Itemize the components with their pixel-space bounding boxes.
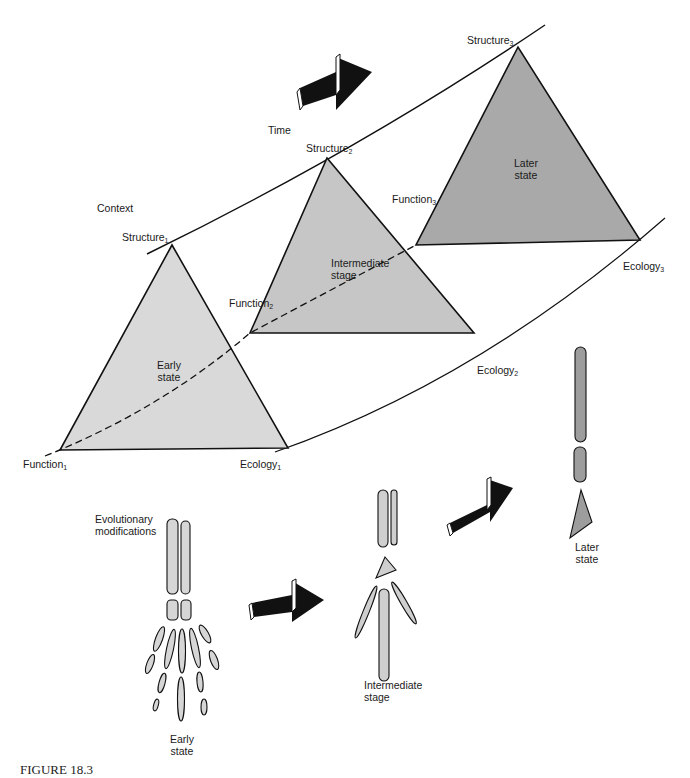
structure-1-label: Structure1 — [122, 231, 169, 247]
bones-intermediate-stage-label: Intermediatestage — [364, 679, 422, 703]
triangle-early-state — [60, 245, 288, 450]
bones-later-state-label: Laterstate — [575, 541, 599, 565]
arrow-intermediate-to-later-icon — [447, 477, 513, 536]
bones-early-state-label: Earlystate — [170, 733, 194, 757]
context-label: Context — [97, 202, 133, 214]
later-state-limb — [570, 347, 592, 538]
function-3-label: Function3 — [392, 193, 436, 209]
early-state-label: Earlystate — [157, 359, 181, 383]
structure-3-label: Structure3 — [467, 34, 514, 50]
ecology-3-label: Ecology3 — [623, 260, 664, 276]
evolutionary-modifications-label: Evolutionarymodifications — [95, 513, 156, 537]
ecology-1-label: Ecology1 — [240, 458, 281, 474]
time-label: Time — [268, 124, 291, 136]
arrow-early-to-intermediate-icon — [249, 579, 324, 622]
later-state-label: Laterstate — [514, 157, 538, 181]
early-state-limb — [144, 519, 221, 721]
intermediate-stage-limb — [353, 490, 419, 681]
ecology-2-label: Ecology2 — [477, 364, 518, 380]
function-1-label: Function1 — [23, 458, 67, 474]
function-2-label: Function2 — [229, 297, 273, 313]
intermediate-stage-label: Intermediatestage — [331, 257, 389, 281]
time-arrow-icon — [297, 54, 372, 110]
structure-2-label: Structure2 — [306, 142, 353, 158]
triangle-later-state — [416, 47, 640, 245]
figure-caption: FIGURE 18.3 — [20, 762, 93, 778]
